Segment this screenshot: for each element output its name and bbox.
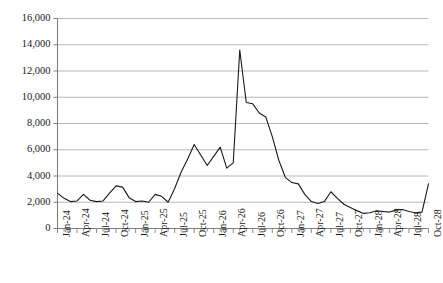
x-tick-label: Jul-28 bbox=[413, 212, 423, 237]
x-tick-label: Jul-26 bbox=[257, 212, 267, 237]
x-tick-label: Jan-26 bbox=[218, 210, 228, 237]
data-series-line bbox=[58, 50, 429, 213]
y-tick-label: 12,000 bbox=[22, 66, 51, 77]
x-tick-label: Apr-24 bbox=[81, 208, 91, 237]
y-tick-label: 6,000 bbox=[27, 144, 51, 155]
line-chart: 02,0004,0006,0008,00010,00012,00014,0001… bbox=[0, 0, 443, 283]
chart-plot-area bbox=[0, 0, 443, 283]
x-tick-label: Jan-27 bbox=[296, 210, 306, 237]
y-axis-ticks bbox=[54, 19, 58, 229]
y-tick-label: 14,000 bbox=[22, 39, 51, 50]
x-tick-label: Apr-26 bbox=[237, 208, 247, 237]
x-tick-label: Oct-24 bbox=[120, 209, 130, 237]
y-tick-label: 16,000 bbox=[22, 13, 51, 24]
gridlines bbox=[58, 19, 429, 203]
y-tick-label: 0 bbox=[45, 223, 50, 234]
x-tick-label: Apr-25 bbox=[159, 208, 169, 237]
x-tick-label: Oct-26 bbox=[276, 209, 286, 237]
y-tick-label: 4,000 bbox=[27, 171, 51, 182]
x-tick-label: Jan-28 bbox=[374, 210, 384, 237]
x-tick-label: Oct-25 bbox=[198, 209, 208, 237]
x-tick-label: Jul-24 bbox=[101, 212, 111, 237]
x-tick-label: Jul-25 bbox=[179, 212, 189, 237]
y-tick-label: 8,000 bbox=[27, 118, 51, 129]
x-tick-label: Jul-27 bbox=[335, 212, 345, 237]
x-tick-label: Apr-28 bbox=[393, 208, 403, 237]
x-tick-label: Oct-28 bbox=[433, 209, 443, 237]
x-tick-label: Oct-27 bbox=[354, 209, 364, 237]
y-tick-label: 10,000 bbox=[22, 92, 51, 103]
x-tick-label: Jan-24 bbox=[62, 210, 72, 237]
x-tick-label: Jan-25 bbox=[140, 210, 150, 237]
y-tick-label: 2,000 bbox=[27, 197, 51, 208]
x-tick-label: Apr-27 bbox=[315, 208, 325, 237]
